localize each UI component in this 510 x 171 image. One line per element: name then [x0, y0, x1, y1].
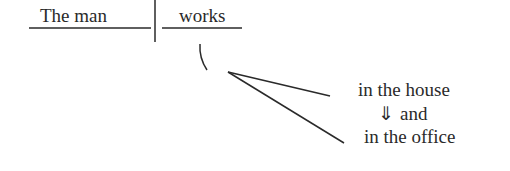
- modifier-line-office: [228, 72, 344, 143]
- modifier-office-text: in the office: [364, 127, 455, 146]
- conjunction-text: and: [400, 104, 427, 123]
- verb-text: works: [179, 6, 225, 25]
- modifier-line-house: [228, 72, 330, 96]
- modifier-connector-curve: [200, 44, 207, 70]
- modifier-house-text: in the house: [358, 80, 450, 99]
- subject-text: The man: [40, 6, 107, 25]
- conjunction-arrow-icon: ⇓: [378, 104, 394, 123]
